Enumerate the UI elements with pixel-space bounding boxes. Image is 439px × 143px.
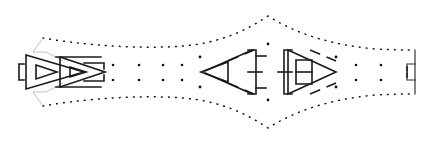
field-dot	[181, 79, 184, 82]
right-bracket-terminal-group	[407, 64, 415, 80]
field-dot	[380, 64, 383, 67]
center-right-dashed-lower	[310, 83, 336, 94]
center-left-small-triangle	[201, 62, 228, 82]
field-dot	[112, 79, 115, 82]
field-dot	[112, 64, 115, 67]
field-dot	[181, 64, 184, 67]
envelope-left-cap-upper	[33, 38, 43, 52]
schematic-figure: Symmetric schematic line diagram	[0, 0, 439, 143]
left-inner-triangle-a	[36, 65, 57, 79]
figure-canvas: Symmetric schematic line diagram	[0, 0, 439, 143]
axis-dot	[335, 86, 338, 89]
axis-dot	[335, 56, 338, 59]
field-dot	[355, 64, 358, 67]
field-dot	[355, 79, 358, 82]
center-right-funnel-group	[278, 50, 336, 94]
center-axis-dots	[199, 43, 338, 102]
dotted-envelope-group	[33, 16, 415, 128]
field-dot	[138, 79, 141, 82]
axis-dot	[267, 99, 270, 102]
center-left-funnel-group	[201, 50, 266, 94]
envelope-left-cap-lower	[33, 92, 43, 106]
left-nested-arrow-group	[19, 52, 105, 92]
lower-envelope-curve	[43, 94, 415, 128]
field-dot	[380, 79, 383, 82]
axis-dot	[199, 56, 202, 59]
field-dot	[138, 64, 141, 67]
left-bracket-icon	[19, 64, 24, 80]
interior-dot-field	[112, 64, 383, 82]
axis-dot	[199, 86, 202, 89]
right-terminal-lower	[407, 74, 415, 80]
field-dot	[162, 79, 165, 82]
left-inner-triangle-b	[70, 67, 86, 77]
right-terminal-upper	[407, 64, 415, 70]
upper-envelope-curve	[43, 16, 415, 50]
field-dot	[162, 64, 165, 67]
center-right-dashed-upper	[310, 50, 336, 61]
axis-dot	[267, 43, 270, 46]
